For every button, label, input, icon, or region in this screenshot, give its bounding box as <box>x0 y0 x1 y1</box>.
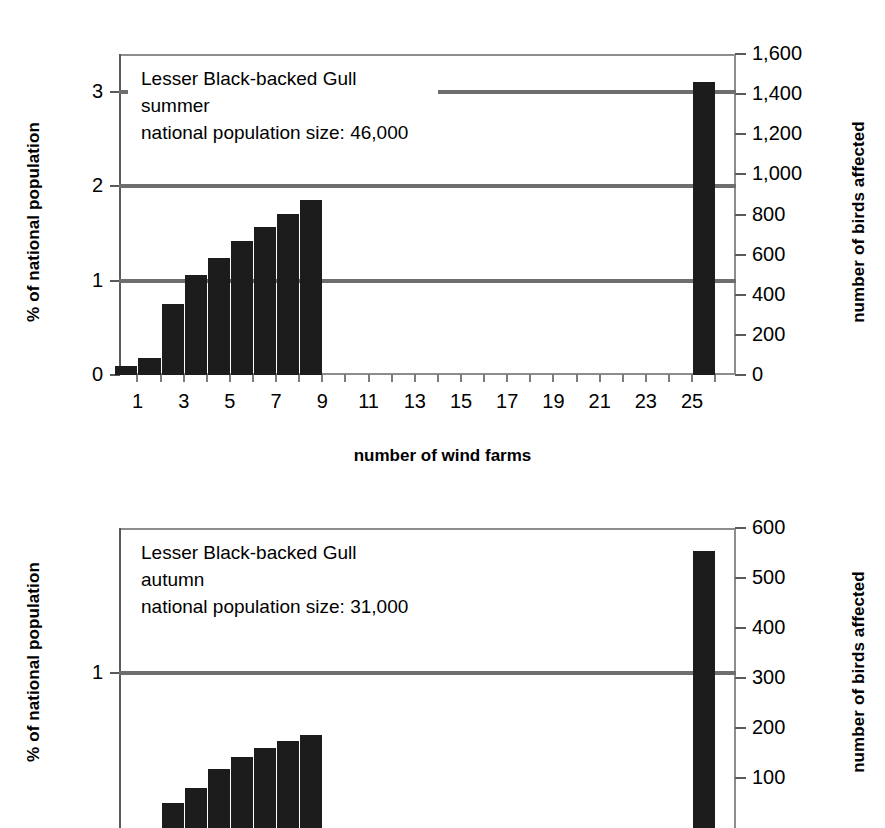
bar <box>254 748 276 828</box>
x-tick <box>391 374 393 382</box>
y-tick-right <box>735 677 746 679</box>
x-tick <box>321 374 323 382</box>
gridline-stub <box>119 90 128 94</box>
gridline <box>119 671 736 675</box>
y-tick-right <box>735 374 746 376</box>
y-tick-label-left: 1 <box>43 662 103 682</box>
x-tick-label: 25 <box>672 391 712 411</box>
y-axis-right-title-summer: number of birds affected <box>849 92 869 352</box>
bar <box>162 304 184 375</box>
x-tick-label: 13 <box>395 391 435 411</box>
y-tick-label-left: 1 <box>43 270 103 290</box>
x-tick <box>714 374 716 382</box>
x-tick-label: 7 <box>256 391 296 411</box>
chart-summer: % of national population number of birds… <box>0 0 885 500</box>
y-axis-left-title-autumn: % of national population <box>24 532 44 792</box>
plot-frame-top <box>119 54 736 56</box>
chart-autumn: % of national population number of birds… <box>0 500 885 821</box>
y-tick-right <box>735 53 746 55</box>
x-tick-label: 9 <box>302 391 342 411</box>
y-tick-right <box>735 294 746 296</box>
y-tick-label-left: 2 <box>43 175 103 195</box>
y-tick-label-right: 600 <box>752 517 832 537</box>
y-tick-right <box>735 93 746 95</box>
y-tick-label-right: 200 <box>752 717 832 737</box>
x-tick <box>160 374 162 382</box>
bar <box>300 200 322 375</box>
y-tick-right <box>735 577 746 579</box>
y-tick-right <box>735 173 746 175</box>
x-tick <box>691 374 693 382</box>
x-tick <box>645 374 647 382</box>
x-tick <box>229 374 231 382</box>
x-tick <box>599 374 601 382</box>
x-tick <box>136 374 138 382</box>
y-axis-line-autumn <box>119 528 121 828</box>
x-tick-label: 21 <box>580 391 620 411</box>
bar <box>185 275 207 375</box>
gridline <box>438 90 736 94</box>
y-tick-label-right: 200 <box>752 324 832 344</box>
y-tick-label-right: 300 <box>752 667 832 687</box>
y-tick-right <box>735 334 746 336</box>
y-tick-label-right: 400 <box>752 284 832 304</box>
x-tick <box>275 374 277 382</box>
y-tick-right <box>735 133 746 135</box>
y-axis-left-title-summer: % of national population <box>24 92 44 352</box>
y-tick-label-right: 400 <box>752 617 832 637</box>
x-tick <box>414 374 416 382</box>
y-tick-label-right: 600 <box>752 244 832 264</box>
x-tick <box>183 374 185 382</box>
chart-annotation-autumn: Lesser Black-backed Gull autumn national… <box>141 540 408 621</box>
y-axis-right-title-autumn: number of birds affected <box>849 542 869 802</box>
x-tick <box>460 374 462 382</box>
bar <box>208 258 230 375</box>
x-tick-label: 15 <box>441 391 481 411</box>
x-tick <box>252 374 254 382</box>
x-tick-label: 19 <box>533 391 573 411</box>
x-tick-label: 1 <box>118 391 158 411</box>
x-tick <box>437 374 439 382</box>
bar <box>300 735 322 828</box>
x-tick <box>344 374 346 382</box>
y-tick-right <box>735 527 746 529</box>
y-tick-label-right: 1,400 <box>752 83 832 103</box>
bar <box>231 757 253 828</box>
y-tick-right <box>735 777 746 779</box>
bar <box>115 366 137 375</box>
y-tick-label-right: 100 <box>752 767 832 787</box>
y-tick-label-right: 1,200 <box>752 123 832 143</box>
y-tick-right <box>735 254 746 256</box>
bar <box>208 769 230 828</box>
x-tick <box>529 374 531 382</box>
x-tick <box>483 374 485 382</box>
bar <box>277 741 299 828</box>
x-tick <box>506 374 508 382</box>
bar <box>693 82 715 375</box>
chart-annotation-summer: Lesser Black-backed Gull summer national… <box>141 66 408 147</box>
x-tick <box>368 374 370 382</box>
y-tick-label-left: 3 <box>43 81 103 101</box>
x-tick <box>668 374 670 382</box>
y-tick-label-right: 1,000 <box>752 163 832 183</box>
x-tick <box>206 374 208 382</box>
x-tick-label: 5 <box>210 391 250 411</box>
bar <box>693 551 715 828</box>
y-tick-right <box>735 727 746 729</box>
bar <box>277 214 299 375</box>
plot-frame-top <box>119 528 736 530</box>
y-tick-label-right: 500 <box>752 567 832 587</box>
bar <box>162 803 184 828</box>
x-axis-title-summer: number of wind farms <box>0 446 885 466</box>
x-tick-label: 3 <box>164 391 204 411</box>
x-tick <box>298 374 300 382</box>
y-tick-right <box>735 214 746 216</box>
gridline <box>119 184 736 188</box>
x-tick <box>622 374 624 382</box>
y-tick-label-right: 0 <box>752 364 832 384</box>
y-tick-label-left: 0 <box>43 364 103 384</box>
y-tick-right <box>735 627 746 629</box>
bar <box>185 788 207 828</box>
y-axis-line-summer <box>119 54 121 375</box>
bar <box>254 227 276 375</box>
